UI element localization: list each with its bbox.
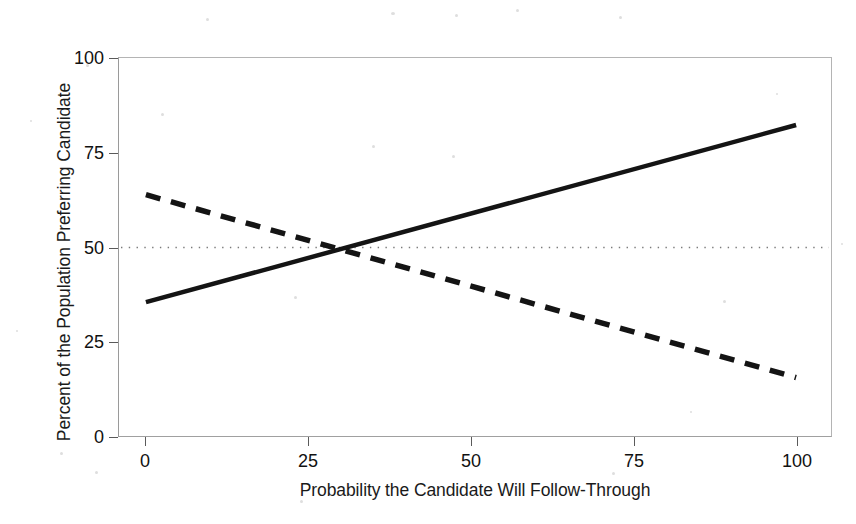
- scan-speck: [95, 471, 98, 474]
- x-tick-label: 25: [298, 451, 318, 472]
- x-tick-mark: [797, 437, 798, 446]
- chart-figure: Percent of the Population Preferring Can…: [0, 0, 856, 524]
- x-tick-label: 0: [140, 451, 150, 472]
- series-line-1: [146, 125, 796, 302]
- x-tick-mark: [634, 437, 635, 446]
- y-tick-mark: [109, 342, 118, 343]
- y-tick-label: 75: [84, 142, 104, 163]
- data-line-group: [146, 125, 796, 378]
- scan-speck: [30, 120, 32, 122]
- y-tick-label: 50: [84, 237, 104, 258]
- plot-lines: [119, 58, 831, 436]
- x-tick-label: 100: [782, 451, 812, 472]
- y-tick-mark: [109, 153, 118, 154]
- scan-speck: [516, 9, 519, 12]
- scan-speck: [455, 14, 458, 17]
- y-tick-mark: [109, 437, 118, 438]
- plot-area: [118, 57, 832, 437]
- y-tick-label: 0: [94, 427, 104, 448]
- y-tick-mark: [109, 58, 118, 59]
- x-tick-mark: [145, 437, 146, 446]
- x-axis-title: Probability the Candidate Will Follow-Th…: [118, 480, 832, 501]
- x-tick-label: 75: [624, 451, 644, 472]
- x-tick-mark: [308, 437, 309, 446]
- scan-speck: [16, 330, 18, 332]
- scan-speck: [841, 243, 843, 245]
- scan-speck: [391, 12, 395, 15]
- y-axis-title: Percent of the Population Preferring Can…: [46, 0, 92, 524]
- y-axis-title-text: Percent of the Population Preferring Can…: [54, 83, 85, 441]
- y-tick-label: 100: [74, 48, 104, 69]
- y-tick-label: 25: [84, 332, 104, 353]
- scan-speck: [612, 472, 615, 475]
- series-line-2: [146, 195, 796, 378]
- x-tick-label: 50: [461, 451, 481, 472]
- scan-speck: [619, 16, 622, 19]
- scan-speck: [206, 18, 209, 21]
- y-tick-mark: [109, 248, 118, 249]
- x-tick-mark: [471, 437, 472, 446]
- scan-speck: [60, 452, 63, 455]
